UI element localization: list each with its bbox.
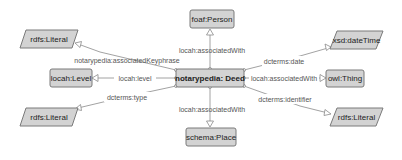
edge-label: locah:level <box>118 75 152 82</box>
node-schema-place[interactable]: schema:Place <box>186 128 237 146</box>
arrow-head-icon <box>207 29 214 35</box>
edge-label: locah:associatedWith <box>251 75 317 82</box>
edge-date: dcterms:date <box>243 44 332 72</box>
node-foaf-person[interactable]: foaf:Person <box>190 10 234 28</box>
edge-level: locah:level <box>92 73 178 83</box>
node-rdfs-literal-right[interactable]: rdfs:Literal <box>330 108 383 126</box>
node-label: schema:Place <box>186 133 237 142</box>
node-rdfs-literal-top-left[interactable]: rdfs:Literal <box>20 30 78 48</box>
arrow-head-icon <box>92 75 98 82</box>
edge-type: dcterms:type <box>75 85 178 111</box>
edge-identifier: dcterms:identifier <box>243 85 332 116</box>
edge-associated-with-thing: locah:associatedWith <box>243 73 327 83</box>
edge-label: locah:associatedWith <box>179 47 245 54</box>
edge-label: dcterms:identifier <box>258 96 312 103</box>
node-locah-level[interactable]: locah:Level <box>50 69 92 87</box>
arrow-head-icon <box>207 121 214 127</box>
node-notarypedia-deed[interactable]: notarypedia: Deed <box>175 69 245 87</box>
edge-associated-with-person: locah:associatedWith <box>179 29 245 71</box>
node-label: xsd:dateTime <box>333 36 381 45</box>
node-label: rdfs:Literal <box>30 35 68 44</box>
node-label: rdfs:Literal <box>30 113 68 122</box>
node-xsd-datetime[interactable]: xsd:dateTime <box>330 31 383 49</box>
node-label: rdfs:Literal <box>338 113 376 122</box>
ontology-diagram: locah:associatedWith locah:associatedWit… <box>0 0 402 160</box>
node-rdfs-literal-bottom-left[interactable]: rdfs:Literal <box>20 108 78 126</box>
node-label: foaf:Person <box>192 15 233 24</box>
arrow-head-icon <box>324 110 331 116</box>
arrow-head-icon <box>320 75 326 82</box>
node-owl-thing[interactable]: owl:Thing <box>326 70 364 87</box>
edge-label: dcterms:date <box>264 58 305 65</box>
edge-label: locah:associatedWith <box>179 106 245 113</box>
node-label: notarypedia: Deed <box>175 74 245 83</box>
node-label: locah:Level <box>51 74 92 83</box>
arrow-head-icon <box>325 44 331 51</box>
edge-label: notarypedia:associatedKeyphrase <box>74 57 180 65</box>
arrow-head-icon <box>75 42 82 48</box>
edge-label: dcterms:type <box>107 94 147 102</box>
edge-associated-with-place: locah:associatedWith <box>179 86 245 128</box>
node-label: owl:Thing <box>328 74 362 83</box>
edge-associated-keyphrase: notarypedia:associatedKeyphrase <box>74 42 180 72</box>
